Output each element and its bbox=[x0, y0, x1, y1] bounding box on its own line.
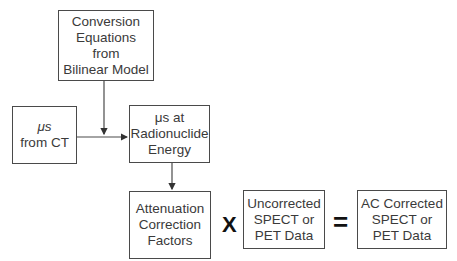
box-line: Bilinear Model bbox=[63, 62, 149, 78]
box-line: μs bbox=[37, 119, 51, 135]
box-line: Conversion bbox=[72, 14, 140, 30]
box-line: AC Corrected bbox=[361, 196, 443, 212]
uncorrected-data-box: Uncorrected SPECT or PET Data bbox=[243, 190, 325, 249]
box-line: Radionuclide bbox=[130, 126, 208, 142]
box-line: Factors bbox=[147, 233, 192, 249]
mus-from-ct-box: μs from CT bbox=[12, 106, 77, 164]
box-line: Equations bbox=[76, 30, 136, 46]
box-line: Energy bbox=[148, 142, 191, 158]
ac-corrected-data-box: AC Corrected SPECT or PET Data bbox=[357, 190, 447, 249]
mus-at-energy-box: μs at Radionuclide Energy bbox=[129, 105, 210, 163]
box-line: μs at bbox=[155, 110, 185, 126]
box-line: from CT bbox=[20, 135, 69, 151]
box-line: Uncorrected bbox=[247, 196, 321, 212]
box-line: SPECT or bbox=[254, 212, 315, 228]
multiply-operator: X bbox=[222, 214, 237, 236]
box-line: PET Data bbox=[373, 228, 431, 244]
equals-operator: = bbox=[333, 211, 348, 233]
box-line: PET Data bbox=[255, 228, 313, 244]
box-line: Correction bbox=[139, 217, 201, 233]
conversion-equations-box: Conversion Equations from Bilinear Model bbox=[58, 10, 154, 81]
box-line: Attenuation bbox=[136, 201, 204, 217]
box-line: SPECT or bbox=[372, 212, 433, 228]
box-line: from bbox=[93, 46, 120, 62]
attenuation-correction-box: Attenuation Correction Factors bbox=[129, 191, 211, 259]
